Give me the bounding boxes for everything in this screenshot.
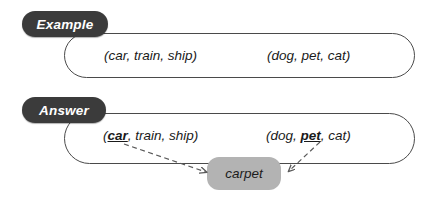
answer-badge: Answer: [22, 97, 106, 123]
result-chip-label: carpet: [225, 166, 263, 181]
example-badge-label: Example: [37, 17, 94, 32]
figure-canvas: Example (car, train, ship) (dog, pet, ca…: [0, 0, 434, 198]
result-chip: carpet: [207, 157, 281, 190]
example-left-phrase: (car, train, ship): [104, 48, 197, 63]
answer-left-highlight: car: [108, 128, 128, 143]
answer-right-open: (dog,: [266, 128, 301, 143]
answer-left-rest: , train, ship): [128, 128, 199, 143]
example-badge: Example: [22, 11, 108, 37]
answer-right-phrase: (dog, pet, cat): [266, 128, 351, 143]
example-right-phrase: (dog, pet, cat): [267, 48, 350, 63]
answer-badge-label: Answer: [39, 103, 89, 118]
answer-left-phrase: (car, train, ship): [103, 128, 198, 143]
answer-right-highlight: pet: [301, 128, 321, 143]
answer-right-rest: , cat): [321, 128, 351, 143]
